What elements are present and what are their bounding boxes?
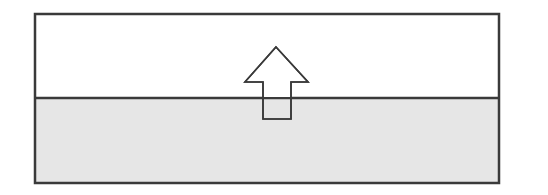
diagram-canvas [0,0,548,195]
lower-region [35,98,499,183]
